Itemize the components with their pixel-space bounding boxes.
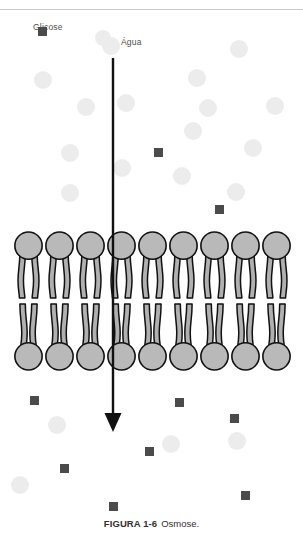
figure-number: FIGURA 1-6 [104, 518, 157, 529]
arrow-head [105, 413, 122, 432]
figure-caption: FIGURA 1-6Osmose. [0, 518, 303, 529]
osmosis-flow-arrow [0, 0, 303, 547]
osmosis-figure: Glicose Água FIGURA 1-6Osmose. [0, 0, 303, 547]
figure-caption-text: Osmose. [161, 518, 199, 529]
